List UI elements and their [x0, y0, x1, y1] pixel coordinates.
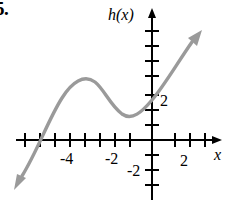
y-tick-label-2: 2 [160, 92, 168, 109]
x-axis [16, 133, 222, 147]
curve-left-arrow-icon [14, 174, 26, 190]
figure-container: 5. [0, 0, 230, 205]
x-axis-label: x [213, 146, 221, 163]
x-axis-arrow-icon [212, 136, 222, 144]
y-tick-label-neg2: -2 [127, 162, 140, 179]
x-tick-label-2: 2 [180, 152, 188, 169]
y-axis-label: h(x) [108, 6, 134, 24]
x-tick-label-neg4: -4 [60, 150, 73, 167]
problem-number: 5. [0, 0, 8, 20]
x-tick-label-neg2: -2 [105, 150, 118, 167]
coordinate-graph: h(x) x 2 -2 -4 -2 2 [0, 0, 230, 205]
y-axis-arrow-icon [148, 8, 156, 18]
